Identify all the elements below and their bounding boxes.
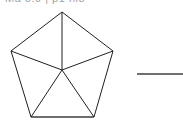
edge-upper-left-to-apex [11, 12, 62, 51]
edge-lower-left-to-upper-left [11, 51, 31, 117]
diagram-canvas: Ma 8.9 | p1 ni8 [0, 0, 183, 127]
spoke-center-to-lower-left [31, 70, 62, 117]
pentagon-figure [0, 0, 183, 127]
spoke-center-to-lower-right [62, 70, 94, 117]
spoke-center-to-upper-left [11, 51, 62, 70]
edge-apex-to-upper-right [62, 12, 113, 51]
spoke-center-to-upper-right [62, 51, 113, 70]
edge-upper-right-to-lower-right [94, 51, 113, 117]
